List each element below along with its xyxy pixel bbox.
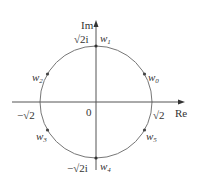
- point-w0: [143, 72, 146, 75]
- point-w2: [46, 72, 49, 75]
- point-w4: [94, 156, 97, 159]
- point-w3: [46, 128, 49, 131]
- point-w1: [94, 44, 97, 47]
- imag-axis-label: Im: [81, 19, 94, 31]
- label-w1: w1: [100, 32, 111, 46]
- label-w3: w3: [36, 130, 47, 144]
- real-axis-label: Re: [175, 107, 187, 119]
- complex-plane-diagram: Im Re 0 √2i −√2i √2 −√2 w1 w0 w2 w3 w5 w…: [0, 0, 197, 183]
- pos-real-label: √2: [153, 109, 165, 121]
- origin-label: 0: [86, 106, 92, 118]
- real-axis-arrow-icon: [178, 100, 185, 105]
- label-w0: w0: [148, 71, 159, 85]
- label-w2: w2: [32, 71, 43, 85]
- label-w4: w4: [100, 160, 111, 174]
- neg-real-label: −√2: [17, 109, 35, 121]
- bottom-imag-label: −√2i: [67, 162, 88, 174]
- imag-axis-arrow-icon: [94, 20, 99, 27]
- label-w5: w5: [146, 130, 157, 144]
- top-imag-label: √2i: [74, 33, 89, 45]
